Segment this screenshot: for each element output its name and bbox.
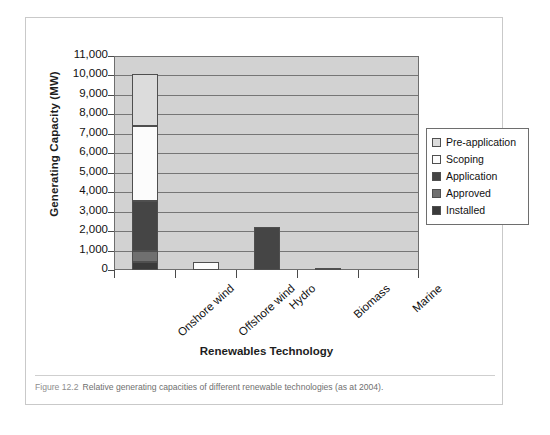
bar-group[interactable]: [132, 56, 158, 270]
chart-legend: Pre-applicationScopingApplicationApprove…: [426, 128, 529, 225]
legend-label: Pre-application: [446, 136, 516, 148]
legend-item[interactable]: Installed: [432, 202, 524, 218]
caption-text: Relative generating capacities of differ…: [82, 382, 383, 392]
legend-item[interactable]: Pre-application: [432, 134, 524, 150]
x-category-label: Biomass: [351, 282, 392, 320]
figure-frame: Generating Capacity (MW) 11,00010,0009,0…: [25, 17, 503, 405]
legend-swatch-icon: [432, 155, 441, 164]
legend-label: Installed: [446, 204, 485, 216]
bar-segment[interactable]: [132, 126, 158, 201]
legend-swatch-icon: [432, 172, 441, 181]
legend-item[interactable]: Approved: [432, 185, 524, 201]
legend-swatch-icon: [432, 189, 441, 198]
x-category-label: Onshore wind: [175, 282, 236, 338]
legend-item[interactable]: Scoping: [432, 151, 524, 167]
bar-group[interactable]: [254, 56, 280, 270]
bar-segment[interactable]: [132, 74, 158, 127]
x-axis-category-labels: Onshore windOffshore windHydroBiomassMar…: [114, 276, 434, 346]
bar-series-layer: [114, 56, 419, 270]
bar-group[interactable]: [193, 56, 219, 270]
bar-group[interactable]: [315, 56, 341, 270]
caption-divider: [35, 375, 495, 376]
bar-segment[interactable]: [254, 227, 280, 270]
legend-swatch-icon: [432, 206, 441, 215]
x-category-label: Marine: [410, 282, 444, 314]
bar-segment[interactable]: [132, 201, 158, 251]
legend-swatch-icon: [432, 138, 441, 147]
legend-label: Approved: [446, 187, 491, 199]
figure-caption: Figure 12.2Relative generating capacitie…: [35, 382, 497, 392]
legend-item[interactable]: Application: [432, 168, 524, 184]
x-category-label: Offshore wind: [236, 282, 297, 338]
x-axis-title: Renewables Technology: [114, 345, 419, 357]
chart-area: Generating Capacity (MW) 11,00010,0009,0…: [26, 18, 504, 370]
bar-segment[interactable]: [193, 262, 219, 270]
caption-number: Figure 12.2: [35, 382, 78, 392]
legend-label: Scoping: [446, 153, 484, 165]
bar-segment[interactable]: [132, 251, 158, 263]
bar-group[interactable]: [376, 56, 402, 270]
bar-segment[interactable]: [132, 262, 158, 270]
legend-label: Application: [446, 170, 497, 182]
